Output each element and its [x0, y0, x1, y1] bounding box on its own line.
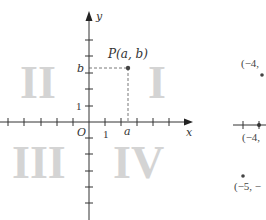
- side-label-mid: (−4,: [242, 131, 260, 144]
- x-axis-arrow-icon: [184, 119, 193, 126]
- x-axis: [0, 118, 193, 126]
- quadrant-iii-label: III: [12, 137, 66, 188]
- side-panel: (−4, (−4, (−5, −: [233, 57, 266, 193]
- x-axis-label: x: [186, 126, 193, 139]
- y-axis-arrow-icon: [86, 11, 93, 21]
- origin-label: O: [77, 126, 86, 139]
- y-unit-label: 1: [76, 100, 82, 112]
- point-p-label: P(a, b): [107, 47, 148, 61]
- coordinate-plane-figure: II I III IV: [0, 0, 266, 220]
- side-point-mid: [257, 123, 261, 127]
- y-axis: [85, 11, 93, 220]
- y-axis-label: y: [95, 10, 103, 23]
- x-unit-label: 1: [103, 128, 109, 140]
- projection-lines: [89, 68, 128, 122]
- side-point-bottom: [241, 174, 245, 178]
- side-point-top: [260, 73, 264, 77]
- y-point-label-b: b: [77, 62, 84, 75]
- x-point-label-a: a: [124, 125, 131, 138]
- quadrant-iv-label: IV: [113, 137, 164, 188]
- point-p: [126, 66, 130, 70]
- quadrant-ii-label: II: [20, 57, 56, 108]
- quadrant-i-label: I: [148, 57, 166, 108]
- side-label-bottom: (−5, −: [234, 180, 261, 193]
- side-label-top: (−4,: [241, 57, 259, 70]
